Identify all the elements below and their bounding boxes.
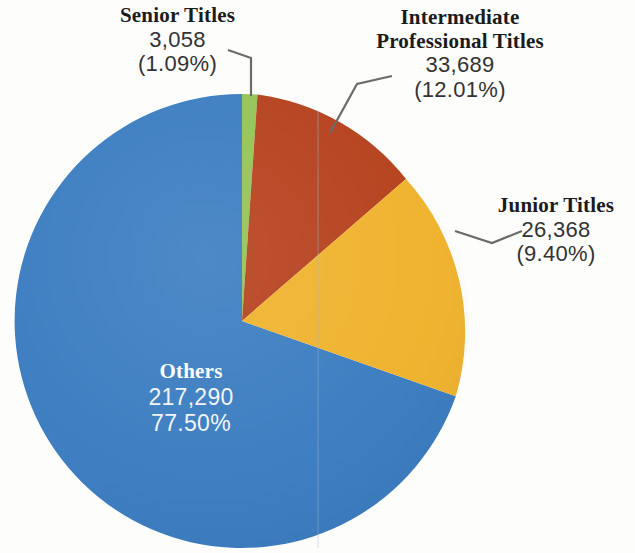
slice-label-senior-titles-percent: (1.09%)	[75, 52, 280, 77]
slice-label-junior-titles: Junior Titles 26,368 (9.40%)	[480, 194, 632, 267]
slice-label-others: Others 217,290 77.50%	[96, 360, 286, 436]
slice-label-senior-titles-name: Senior Titles	[75, 4, 280, 28]
slice-label-others-percent: 77.50%	[96, 410, 286, 436]
slice-label-senior-titles: Senior Titles 3,058 (1.09%)	[75, 4, 280, 77]
slice-label-others-value: 217,290	[96, 384, 286, 410]
slice-label-intermediate-professional-titles-percent: (12.01%)	[345, 78, 575, 103]
slice-label-junior-titles-name: Junior Titles	[480, 194, 632, 218]
pie-sheen-overlay	[15, 94, 469, 548]
slice-label-intermediate-professional-titles-value: 33,689	[345, 53, 575, 78]
slice-label-junior-titles-value: 26,368	[480, 218, 632, 243]
slice-label-intermediate-professional-titles-name-line-1: Intermediate	[345, 6, 575, 30]
slice-label-senior-titles-value: 3,058	[75, 28, 280, 53]
slice-label-others-name: Others	[96, 360, 286, 384]
slice-label-junior-titles-percent: (9.40%)	[480, 242, 632, 267]
slice-label-intermediate-professional-titles-name-line-2: Professional Titles	[345, 30, 575, 54]
pie-chart-figure: Senior Titles 3,058 (1.09%) Intermediate…	[0, 0, 635, 553]
slice-label-intermediate-professional-titles: Intermediate Professional Titles 33,689 …	[345, 6, 575, 102]
